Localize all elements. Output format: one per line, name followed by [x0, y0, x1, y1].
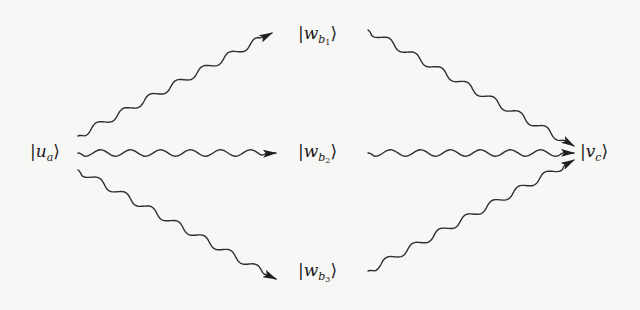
ket-letter: w	[304, 260, 319, 280]
ket-letter: v	[586, 141, 596, 161]
ket-angle: ⟩	[330, 260, 337, 280]
ket-angle: ⟩	[602, 141, 609, 161]
ket-letter: u	[36, 141, 47, 161]
ket-letter: w	[304, 141, 319, 161]
ket-letter: w	[304, 23, 319, 43]
edge-wb2-vc-wavy-arrow	[368, 150, 574, 156]
ket-angle: ⟩	[53, 141, 60, 161]
edge-wb3-vc-wavy-arrow	[368, 160, 574, 271]
node-w-b3: |wb3⟩	[298, 262, 337, 284]
edge-wb1-vc-wavy-arrow	[368, 30, 574, 146]
ket-angle: ⟩	[330, 141, 337, 161]
edge-ua-wb3-wavy-arrow	[78, 170, 276, 279]
ket-subscript: b1	[318, 33, 330, 46]
node-w-b1: |wb1⟩	[298, 25, 337, 47]
edge-ua-wb2-wavy-arrow	[78, 150, 276, 156]
node-w-b2: |wb2⟩	[298, 143, 337, 165]
ket-subscript: b2	[318, 151, 330, 164]
edge-ua-wb1-wavy-arrow	[78, 33, 272, 136]
node-u-a: |ua⟩	[30, 143, 60, 163]
node-v-c: |vc⟩	[580, 143, 608, 163]
ket-angle: ⟩	[330, 23, 337, 43]
ket-subscript: b3	[318, 270, 330, 283]
